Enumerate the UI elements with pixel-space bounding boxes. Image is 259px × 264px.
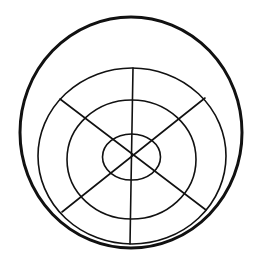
background xyxy=(0,0,259,264)
concentric-circle-diagram xyxy=(0,0,259,264)
